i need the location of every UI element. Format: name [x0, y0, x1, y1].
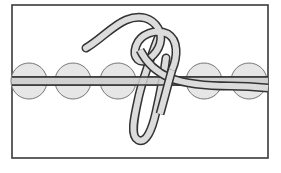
knot-diagram-canvas — [0, 0, 281, 173]
knot-diagram — [0, 0, 281, 173]
